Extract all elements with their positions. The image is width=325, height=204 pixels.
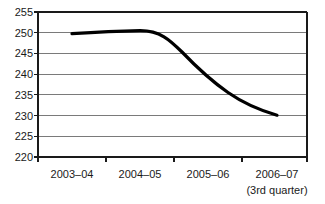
x-tick-labels: 2003–04 2004–05 2005–06 2006–07 (3rd qua… [51,168,308,196]
x-tick-label-2005-06: 2005–06 [187,168,230,180]
y-tick-label-235: 235 [15,89,33,101]
y-tick-label-225: 225 [15,130,33,142]
x-tick-label-2006-07: 2006–07 [256,168,299,180]
line-chart: 255 250 245 240 235 230 225 220 2003–04 … [0,0,325,204]
x-tick-label-2003-04: 2003–04 [51,168,94,180]
x-tick-sublabel-2006-07: (3rd quarter) [246,184,307,196]
y-tick-label-220: 220 [15,151,33,163]
chart-screenshot: 255 250 245 240 235 230 225 220 2003–04 … [0,0,325,204]
y-tick-label-245: 245 [15,47,33,59]
y-tick-labels: 255 250 245 240 235 230 225 220 [15,6,33,163]
y-tick-label-240: 240 [15,68,33,80]
y-tick-label-230: 230 [15,110,33,122]
x-tick-marks [38,157,307,162]
y-tick-label-255: 255 [15,6,33,18]
y-tick-label-250: 250 [15,27,33,39]
x-tick-label-2004-05: 2004–05 [119,168,162,180]
